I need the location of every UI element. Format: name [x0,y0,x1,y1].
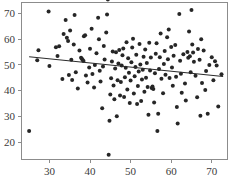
data-point [169,45,173,49]
data-point [125,88,129,92]
data-point [62,32,66,36]
y-axis-tick-labels: 203040506070 [4,7,16,147]
data-point [159,32,163,36]
x-tick-label: 30 [44,165,56,177]
data-point [142,90,146,94]
data-point [156,112,160,116]
data-point [113,67,117,71]
data-point [90,27,94,31]
data-point [204,69,208,73]
data-point [213,59,217,63]
data-point [105,13,109,17]
data-point [158,55,162,59]
data-point [191,51,195,55]
data-point [94,51,98,55]
data-point [123,75,127,79]
data-point [200,81,204,85]
data-point [112,84,116,88]
data-point [220,72,224,76]
data-point [206,112,210,116]
data-point [115,114,119,118]
data-point [60,77,64,81]
data-point [138,62,142,66]
data-point [88,47,92,51]
data-point [72,42,76,46]
data-point [168,76,172,80]
data-point [122,95,126,99]
data-point [195,95,199,99]
data-point [181,52,185,56]
data-point [98,69,102,73]
data-point [129,79,133,83]
data-point [96,16,100,20]
data-point [199,37,203,41]
data-point [70,78,74,82]
data-point [47,64,51,68]
data-point [129,60,133,64]
data-point [137,70,141,74]
data-point [112,97,116,101]
data-point [36,48,40,52]
data-point [97,37,101,41]
data-point [188,54,192,58]
data-point [107,119,111,123]
data-point [132,91,136,95]
data-point [173,43,177,47]
data-point [198,114,202,118]
data-point [149,55,153,59]
y-tick-label: 40 [4,84,16,96]
data-point [175,105,179,109]
data-point [84,73,88,77]
data-point [146,85,150,89]
scatter-plot-figure: 203040506070 3040506070 [0,0,237,187]
data-point [114,50,118,54]
data-point [47,10,51,14]
data-point [99,79,103,83]
data-point [130,45,134,49]
data-point [120,53,124,57]
data-point [109,76,113,80]
plot-frame [22,3,228,160]
data-point [106,0,110,1]
data-point [128,101,132,105]
x-axis-tick-labels: 3040506070 [44,165,218,177]
data-point [152,100,156,104]
data-point [185,50,189,54]
data-point [167,27,171,31]
data-point [190,42,194,46]
data-point [178,59,182,63]
data-point [162,62,166,66]
data-point [76,87,80,91]
data-point [102,44,106,48]
data-point [83,33,87,37]
data-point [135,102,139,106]
data-point [211,78,215,82]
data-point [165,35,169,39]
data-point [144,76,148,80]
y-tick-label: 30 [4,110,16,122]
data-point [159,77,163,81]
data-point [172,54,176,58]
data-point [155,41,159,45]
x-tick-label: 50 [125,165,137,177]
data-point [101,64,105,68]
data-point [189,8,193,12]
data-point [104,31,108,35]
x-tick-label: 40 [85,165,97,177]
data-point [154,52,158,56]
data-point [90,72,94,76]
data-point [202,49,206,53]
data-point [142,55,146,59]
data-point [103,58,107,62]
data-point [118,94,122,98]
data-point [151,87,155,91]
data-point [117,48,121,52]
data-point [147,41,151,45]
data-point [92,86,96,90]
axis-tick-marks [18,14,212,163]
data-point [121,47,125,51]
data-point [161,91,165,95]
data-point [86,80,90,84]
data-point [131,37,135,41]
data-point [57,44,61,48]
